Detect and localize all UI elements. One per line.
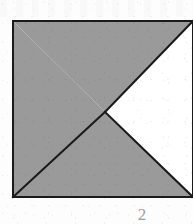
- tangram-square-figure: [0, 0, 193, 224]
- figure-plate: 2: [0, 0, 193, 224]
